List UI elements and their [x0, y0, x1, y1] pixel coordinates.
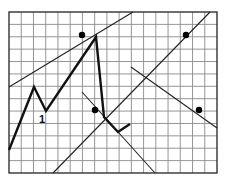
dot-4: [196, 107, 202, 113]
zigzag-path: [9, 37, 130, 150]
dot-3: [92, 107, 98, 113]
grid-diagram: 1: [0, 0, 226, 183]
point-label-1: 1: [39, 113, 45, 125]
dot-1: [79, 32, 85, 38]
dot-2: [183, 32, 189, 38]
labels: 1: [39, 113, 45, 125]
